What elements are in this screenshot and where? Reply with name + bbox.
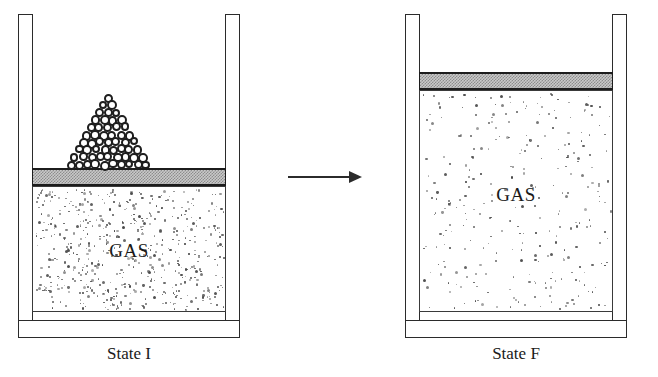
- cylinder-right-wall-state-i: [225, 14, 240, 322]
- cylinder-base-state-f: [405, 320, 627, 338]
- cylinder-right-wall-state-f: [612, 14, 627, 322]
- caption-state-f: State F: [405, 344, 627, 364]
- process-arrow: [288, 171, 362, 183]
- gas-chamber-state-f: GAS: [419, 90, 613, 312]
- arrow-shaft: [288, 176, 351, 178]
- piston-state-i: [32, 168, 226, 186]
- pebble-pile-state-i: [66, 94, 151, 170]
- caption-state-i: State I: [18, 344, 240, 364]
- arrow-head-icon: [349, 171, 362, 183]
- gas-label-state-f: GAS: [420, 184, 612, 206]
- cylinder-left-wall-state-i: [18, 14, 33, 322]
- figure-canvas: GAS State I GAS State F: [0, 0, 658, 377]
- cylinder-state-f: GAS: [405, 14, 627, 338]
- cylinder-base-state-i: [18, 320, 240, 338]
- piston-state-f: [419, 72, 613, 90]
- gas-label-state-i: GAS: [33, 240, 225, 262]
- cylinder-left-wall-state-f: [405, 14, 420, 322]
- gas-chamber-state-i: GAS: [32, 186, 226, 312]
- cylinder-state-i: GAS: [18, 14, 240, 338]
